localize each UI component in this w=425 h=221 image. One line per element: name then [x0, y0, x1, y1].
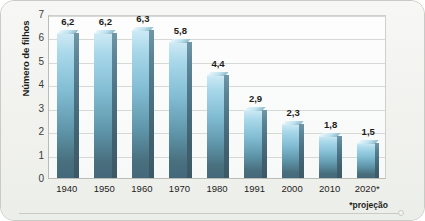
bar-side-face [262, 110, 267, 178]
bar-front-face [57, 33, 75, 178]
bar-front-face [207, 75, 225, 178]
bar-value-label-1991: 2,9 [238, 93, 273, 104]
x-axis-label-1960: 1960 [123, 183, 161, 194]
y-axis-tick-5: 5 [28, 57, 44, 67]
bar-value-label-2000: 2,3 [276, 107, 311, 118]
bar-value-label-1960: 6,3 [126, 13, 161, 24]
bar-2000 [282, 124, 305, 178]
bar-front-face [94, 33, 112, 178]
y-axis-tick-6: 6 [28, 33, 44, 43]
x-axis-label-1950: 1950 [86, 183, 124, 194]
bar-front-face [132, 30, 150, 178]
bar-side-face [299, 124, 304, 178]
baseline-end-dot [398, 210, 404, 216]
x-axis-label-2010: 2010 [311, 183, 349, 194]
bar-value-label-2020*: 1,5 [351, 126, 386, 137]
bar-body [169, 42, 192, 178]
x-axis-tick-labels: 194019501960197019801991200020102020* [48, 183, 386, 199]
bar-side-face [149, 30, 154, 178]
bar-1980 [207, 75, 230, 178]
bar-front-face [244, 110, 262, 178]
bar-side-face [112, 33, 117, 178]
bar-1970 [169, 42, 192, 178]
plot-area: 6,26,26,35,84,42,92,31,81,5 [48, 15, 386, 179]
bar-body [132, 30, 155, 178]
bar-1960 [132, 30, 155, 178]
bar-side-face [224, 75, 229, 178]
bar-body [57, 33, 80, 178]
y-axis-tick-7: 7 [28, 10, 44, 20]
bar-2020* [357, 143, 380, 178]
y-axis-tick-4: 4 [28, 80, 44, 90]
x-axis-label-2000: 2000 [273, 183, 311, 194]
y-axis-tick-1: 1 [28, 151, 44, 161]
bar-value-label-1980: 4,4 [201, 58, 236, 69]
bar-1940 [57, 33, 80, 178]
bar-1991 [244, 110, 267, 178]
bar-2010 [319, 136, 342, 178]
y-axis-tick-3: 3 [28, 104, 44, 114]
footnote-projection: *projeção [349, 200, 388, 210]
chart-figure: Número de filhos 01234567 6,26,26,35,84,… [0, 0, 425, 221]
x-axis-label-1940: 1940 [48, 183, 86, 194]
bar-body [357, 143, 380, 178]
bar-1950 [94, 33, 117, 178]
x-axis-label-1970: 1970 [161, 183, 199, 194]
bar-series: 6,26,26,35,84,42,92,31,81,5 [49, 16, 385, 178]
bar-front-face [282, 124, 300, 178]
x-axis-label-2020*: 2020* [348, 183, 386, 194]
bar-body [319, 136, 342, 178]
baseline-rule [19, 213, 402, 214]
bar-body [207, 75, 230, 178]
bar-side-face [337, 136, 342, 178]
bar-body [244, 110, 267, 178]
x-axis-label-1980: 1980 [198, 183, 236, 194]
bar-body [282, 124, 305, 178]
bar-body [94, 33, 117, 178]
bar-side-face [375, 143, 380, 178]
bar-value-label-1940: 6,2 [51, 16, 86, 27]
y-axis-tick-2: 2 [28, 127, 44, 137]
bar-side-face [187, 42, 192, 178]
bar-front-face [357, 143, 375, 178]
x-axis-label-1991: 1991 [236, 183, 274, 194]
y-axis-tick-labels: 01234567 [28, 15, 44, 179]
bar-value-label-1950: 6,2 [88, 16, 123, 27]
y-axis-tick-0: 0 [28, 174, 44, 184]
bar-value-label-2010: 1,8 [313, 119, 348, 130]
bar-side-face [74, 33, 79, 178]
bar-value-label-1970: 5,8 [163, 25, 198, 36]
bar-front-face [169, 42, 187, 178]
bar-front-face [319, 136, 337, 178]
